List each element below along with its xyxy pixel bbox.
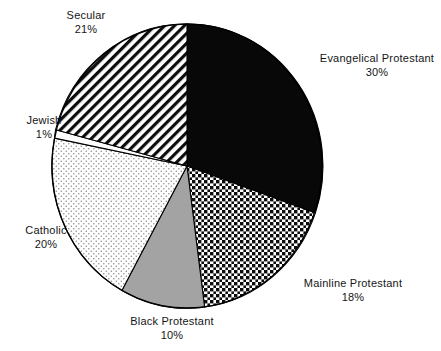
pie-label-mainline-protestant-value: 18%	[283, 291, 423, 305]
pie-label-mainline-protestant-name: Mainline Protestant	[283, 277, 423, 291]
pie-label-jewish: Jewish 1%	[0, 114, 92, 141]
pie-label-black-protestant-name: Black Protestant	[116, 315, 228, 329]
pie-chart-figure: Secular 21% Jewish 1% Catholic 20% Evang…	[0, 0, 441, 351]
pie-label-secular-name: Secular	[34, 9, 138, 23]
pie-label-jewish-value: 1%	[0, 128, 92, 142]
pie-label-black-protestant: Black Protestant 10%	[116, 315, 228, 342]
pie-label-jewish-name: Jewish	[0, 114, 92, 128]
pie-label-secular: Secular 21%	[34, 9, 138, 36]
pie-label-black-protestant-value: 10%	[116, 329, 228, 343]
pie-label-evangelical-protestant: Evangelical Protestant 30%	[313, 52, 441, 79]
pie-label-catholic-name: Catholic	[0, 224, 94, 238]
pie-label-mainline-protestant: Mainline Protestant 18%	[283, 277, 423, 304]
pie-label-catholic: Catholic 20%	[0, 224, 94, 251]
pie-label-evangelical-protestant-name: Evangelical Protestant	[313, 52, 441, 66]
pie-label-secular-value: 21%	[34, 23, 138, 37]
pie-label-catholic-value: 20%	[0, 238, 94, 252]
pie-label-evangelical-protestant-value: 30%	[313, 66, 441, 80]
